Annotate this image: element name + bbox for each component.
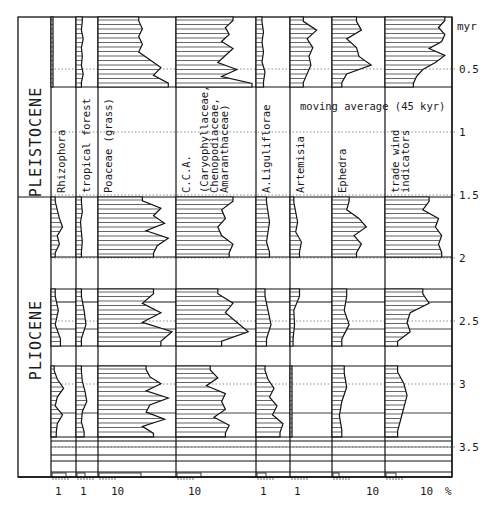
chart-labels: 0.511.522.533.5myrPLEISTOCENEPLIOCENERhi… [27, 20, 479, 498]
moving-average-note: moving average (45 kyr) [300, 100, 445, 112]
column-label: Rhizophora [55, 130, 67, 193]
pollen-curves [51, 17, 445, 437]
epoch-pleistocene: PLEISTOCENE [27, 87, 45, 197]
x-tick-label: 1 [260, 485, 267, 498]
epoch-pliocene: PLIOCENE [27, 300, 45, 380]
pollen-diagram: 0.511.522.533.5myrPLEISTOCENEPLIOCENERhi… [0, 0, 496, 512]
y-unit-label: myr [457, 20, 477, 33]
x-tick-label: 1 [294, 485, 301, 498]
x-tick-label: 10 [111, 485, 124, 498]
y-tick-label: 2 [459, 252, 466, 265]
x-tick-label: 10 [188, 485, 201, 498]
x-tick-label: 1 [80, 485, 87, 498]
x-tick-label: 10 [420, 485, 433, 498]
column-label: C.C.A. [180, 155, 192, 193]
y-tick-label: 1.5 [459, 189, 479, 202]
y-tick-label: 3.5 [459, 441, 479, 454]
y-tick-label: 1 [459, 126, 466, 139]
column-label: indicators [399, 130, 411, 193]
column-label: Artemisia [294, 136, 306, 193]
column-label: Amaranthaceae) [218, 104, 230, 193]
column-label: tropical forest [80, 98, 92, 193]
x-tick-label: 1 [55, 485, 62, 498]
y-tick-label: 0.5 [459, 63, 479, 76]
x-tick-label: 10 [366, 485, 379, 498]
x-tick-label: % [445, 485, 452, 498]
y-tick-label: 3 [459, 378, 466, 391]
column-label: A.Liguliflorae [260, 104, 272, 193]
column-label: Ephedra [336, 149, 348, 193]
y-tick-label: 2.5 [459, 315, 479, 328]
column-label: Poaceae (grass) [102, 98, 114, 193]
